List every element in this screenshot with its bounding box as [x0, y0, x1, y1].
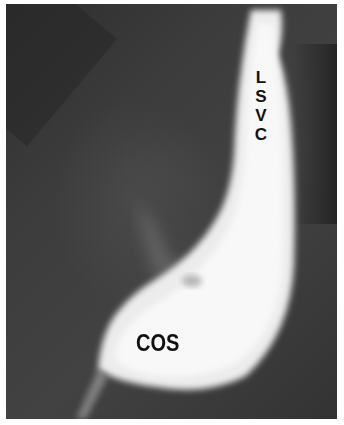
lsvc-label: L S V C	[253, 68, 269, 144]
lsvc-letter: S	[253, 87, 269, 106]
lsvc-letter: V	[253, 106, 269, 125]
lsvc-letter: L	[253, 68, 269, 87]
contrast-vessel	[6, 4, 337, 419]
lsvc-letter: C	[253, 125, 269, 144]
cos-label: COS	[136, 330, 179, 356]
radiograph-image: L S V C COS	[6, 4, 337, 419]
